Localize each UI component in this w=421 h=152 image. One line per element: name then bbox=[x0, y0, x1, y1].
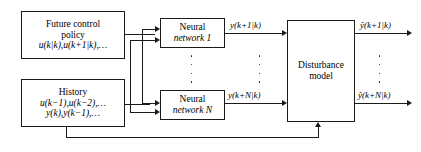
signal-label-predicted-output-1: ŷ(k+1|k) bbox=[360, 20, 391, 30]
disturbance-line1: Disturbance bbox=[298, 60, 344, 71]
signal-label-predicted-output-n: ŷ(k+N|k) bbox=[358, 90, 391, 100]
nn1-line2: network 1 bbox=[174, 33, 212, 44]
arrowhead-nn1-into-disturbance bbox=[282, 30, 287, 36]
future-policy-line3: u(k|k),u(k+1|k),… bbox=[39, 40, 108, 51]
arrowhead-policy-into-nn1 bbox=[155, 26, 160, 32]
connector-history-lower-riser bbox=[130, 104, 131, 112]
connector-policy-out bbox=[125, 34, 155, 35]
connector-nn1-to-disturbance bbox=[225, 33, 282, 34]
nnn-line1: Neural bbox=[180, 94, 206, 105]
signal-label-nnn-output: y(k+N|k) bbox=[228, 90, 261, 100]
history-line3: y(k),y(k−1),… bbox=[46, 108, 100, 119]
arrowhead-output-n bbox=[407, 100, 412, 106]
future-policy-line1: Future control bbox=[46, 19, 100, 30]
connector-history-to-nnn bbox=[130, 112, 155, 113]
arrowhead-nnn-into-disturbance bbox=[282, 100, 287, 106]
arrowhead-output-1 bbox=[407, 30, 412, 36]
connector-feedback-up bbox=[318, 127, 319, 138]
ellipsis-between-signals bbox=[258, 55, 261, 83]
ellipsis-between-networks bbox=[190, 55, 193, 83]
nn1-line1: Neural bbox=[180, 22, 206, 33]
ellipsis-between-outputs bbox=[378, 55, 381, 83]
block-history: History u(k−1),u(k−2),… y(k),y(k−1),… bbox=[21, 79, 125, 127]
connector-policy-riser-nn1 bbox=[142, 29, 143, 35]
connector-history-to-nn1 bbox=[130, 40, 155, 41]
nnn-line2: network N bbox=[173, 105, 212, 116]
block-diagram: Future control policy u(k|k),u(k+1|k),… … bbox=[0, 0, 421, 152]
history-line2: u(k−1),u(k−2),… bbox=[40, 98, 106, 109]
connector-output-n bbox=[355, 103, 407, 104]
connector-nnn-to-disturbance bbox=[225, 103, 282, 104]
block-disturbance-model: Disturbance model bbox=[287, 20, 355, 122]
connector-feedback-rail bbox=[66, 137, 318, 138]
connector-policy-branch-vertical bbox=[142, 34, 143, 103]
connector-output-1 bbox=[355, 33, 407, 34]
future-policy-line2: policy bbox=[61, 30, 85, 41]
signal-label-nn1-output: y(k+1|k) bbox=[230, 20, 261, 30]
disturbance-line2: model bbox=[309, 71, 333, 82]
arrowhead-policy-into-nnn bbox=[155, 100, 160, 106]
history-line1: History bbox=[59, 87, 88, 98]
connector-history-out bbox=[125, 104, 150, 105]
connector-history-branch-vertical bbox=[130, 40, 131, 104]
block-neural-network-n: Neural network N bbox=[160, 90, 225, 120]
block-future-control-policy: Future control policy u(k|k),u(k+1|k),… bbox=[21, 11, 125, 59]
connector-policy-to-nn1 bbox=[142, 29, 155, 30]
arrowhead-history-into-nnn bbox=[155, 109, 160, 115]
arrowhead-history-into-nn1 bbox=[155, 37, 160, 43]
arrowhead-feedback-into-disturbance bbox=[315, 122, 321, 127]
block-neural-network-1: Neural network 1 bbox=[160, 18, 225, 48]
